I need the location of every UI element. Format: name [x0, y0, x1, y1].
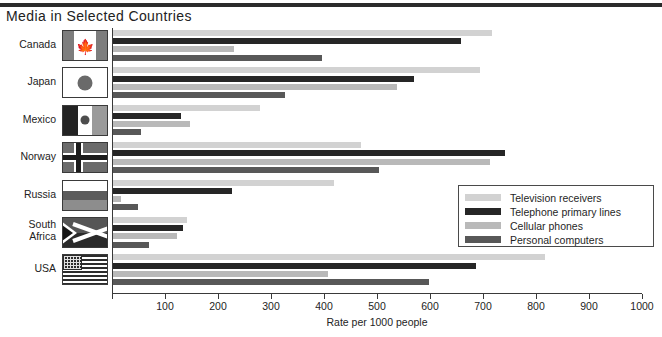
bar-norway-personal-computers [113, 167, 379, 173]
x-tick-1000 [642, 294, 643, 299]
legend-item: Television receivers [465, 191, 647, 204]
bar-russia-personal-computers [113, 204, 138, 210]
legend-item: Personal computers [465, 233, 647, 246]
x-tick-label-800: 800 [527, 300, 545, 312]
x-tick-200 [218, 294, 219, 299]
x-tick-label-200: 200 [209, 300, 227, 312]
mexico-flag [62, 105, 108, 136]
legend-item: Cellular phones [465, 219, 647, 232]
bar-group: Norway [0, 142, 662, 179]
x-tick-900 [589, 294, 590, 299]
bar-japan-cellular-phones [113, 84, 397, 90]
x-axis-title: Rate per 1000 people [112, 316, 642, 328]
bar-south-africa-cellular-phones [113, 233, 177, 239]
bar-group: Japan [0, 67, 662, 104]
x-tick-label-100: 100 [156, 300, 174, 312]
bar-usa-telephone-primary-lines [113, 263, 476, 269]
bar-canada-television-receivers [113, 30, 492, 36]
bar-usa-television-receivers [113, 254, 545, 260]
x-tick-label-600: 600 [421, 300, 439, 312]
x-tick-600 [430, 294, 431, 299]
x-tick-500 [377, 294, 378, 299]
bar-group: Mexico [0, 105, 662, 142]
japan-flag [62, 67, 108, 98]
bar-japan-telephone-primary-lines [113, 76, 414, 82]
bar-mexico-cellular-phones [113, 121, 190, 127]
legend-swatch [465, 208, 501, 215]
bar-canada-cellular-phones [113, 46, 234, 52]
header-rule [0, 3, 662, 7]
bar-south-africa-television-receivers [113, 217, 187, 223]
norway-flag [62, 142, 108, 173]
bar-south-africa-personal-computers [113, 242, 149, 248]
legend-swatch [465, 222, 501, 229]
bar-norway-television-receivers [113, 142, 361, 148]
country-label-norway: Norway [0, 150, 56, 162]
x-tick-300 [271, 294, 272, 299]
bar-japan-television-receivers [113, 67, 480, 73]
x-tick-400 [324, 294, 325, 299]
south-africa-flag [62, 217, 108, 248]
russia-flag [62, 180, 108, 211]
bar-south-africa-telephone-primary-lines [113, 225, 183, 231]
bar-usa-personal-computers [113, 279, 429, 285]
x-tick-label-1000: 1000 [630, 300, 653, 312]
country-label-japan: Japan [0, 75, 56, 87]
bar-mexico-television-receivers [113, 105, 260, 111]
x-tick-label-700: 700 [474, 300, 492, 312]
x-tick-700 [483, 294, 484, 299]
bar-russia-telephone-primary-lines [113, 188, 232, 194]
bar-group: Canada🍁 [0, 30, 662, 67]
legend-label: Telephone primary lines [510, 206, 621, 218]
bar-canada-telephone-primary-lines [113, 38, 461, 44]
x-tick-label-500: 500 [368, 300, 386, 312]
country-label-mexico: Mexico [0, 113, 56, 125]
bar-japan-personal-computers [113, 92, 285, 98]
x-tick-100 [165, 294, 166, 299]
country-label-canada: Canada [0, 38, 56, 50]
bar-norway-cellular-phones [113, 159, 490, 165]
bar-usa-cellular-phones [113, 271, 328, 277]
x-tick-0 [112, 294, 113, 299]
legend-item: Telephone primary lines [465, 205, 647, 218]
bar-mexico-personal-computers [113, 129, 141, 135]
chart-figure: Media in Selected Countries 100200300400… [0, 0, 662, 337]
x-tick-label-900: 900 [580, 300, 598, 312]
bar-mexico-telephone-primary-lines [113, 113, 181, 119]
bar-russia-television-receivers [113, 180, 334, 186]
legend-swatch [465, 236, 501, 243]
country-label-usa: USA [0, 262, 56, 274]
country-label-russia: Russia [0, 188, 56, 200]
canada-flag: 🍁 [62, 30, 108, 61]
bar-russia-cellular-phones [113, 196, 121, 202]
legend-swatch [465, 194, 501, 201]
page-title: Media in Selected Countries [6, 8, 192, 24]
x-tick-label-400: 400 [315, 300, 333, 312]
legend-label: Cellular phones [510, 220, 583, 232]
bar-norway-telephone-primary-lines [113, 150, 505, 156]
bar-group: USA [0, 254, 662, 291]
bar-canada-personal-computers [113, 55, 322, 61]
x-tick-label-300: 300 [262, 300, 280, 312]
legend-label: Personal computers [510, 234, 603, 246]
x-tick-800 [536, 294, 537, 299]
country-label-south-africa: SouthAfrica [0, 218, 56, 242]
legend-label: Television receivers [510, 192, 602, 204]
usa-flag [62, 254, 108, 285]
chart-legend: Television receiversTelephone primary li… [458, 185, 654, 247]
